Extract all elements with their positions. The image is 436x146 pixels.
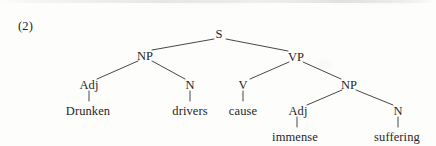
tree-node-drivers: drivers xyxy=(172,105,207,117)
tree-edge-np1-to-adj1 xyxy=(97,61,138,79)
tree-edge-s-to-np1 xyxy=(152,39,214,50)
tree-node-n1: N xyxy=(185,79,194,91)
tree-edge-vp-to-v xyxy=(250,62,289,79)
tree-node-v: V xyxy=(238,79,247,91)
tree-node-np1: NP xyxy=(137,50,153,62)
tree-node-cause: cause xyxy=(229,105,257,117)
tree-node-adj2: Adj xyxy=(288,105,307,117)
tree-branch-lines xyxy=(0,0,436,146)
tree-edge-vp-to-np2 xyxy=(303,62,341,79)
tree-node-vp: VP xyxy=(288,51,304,63)
tree-node-n2: N xyxy=(393,105,402,117)
tree-node-suffering: suffering xyxy=(374,131,420,143)
tree-edge-np1-to-n1 xyxy=(152,61,185,79)
tree-node-drunken: Drunken xyxy=(66,105,110,117)
tree-edge-np2-to-n2 xyxy=(356,90,393,105)
tree-edge-np2-to-adj2 xyxy=(307,90,342,105)
tree-node-s: S xyxy=(215,28,222,40)
tree-edge-s-to-vp xyxy=(226,39,288,51)
tree-node-adj1: Adj xyxy=(79,79,98,91)
tree-node-np2: NP xyxy=(341,79,357,91)
scanned-page: (2) SNPVPAdjNVNPDrunkendriverscauseAdjNi… xyxy=(0,0,436,146)
tree-node-immense: immense xyxy=(272,131,318,143)
